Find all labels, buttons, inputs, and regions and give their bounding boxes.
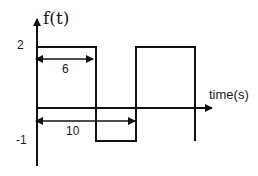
y-tick-minus-1: -1 <box>16 133 27 147</box>
x-axis-label: time(s) <box>209 87 249 102</box>
dimension-label-6: 6 <box>62 62 69 76</box>
y-axis-label: f(t) <box>43 8 69 28</box>
square-wave <box>37 47 195 141</box>
dimension-label-10: 10 <box>66 124 79 138</box>
y-tick-2: 2 <box>17 38 24 52</box>
